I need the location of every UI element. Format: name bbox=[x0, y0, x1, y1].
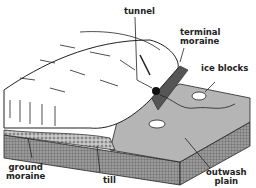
tunnel-opening bbox=[152, 87, 160, 95]
label-outwash-plain: outwash plain bbox=[206, 168, 247, 186]
label-till: till bbox=[103, 176, 116, 185]
ice-block bbox=[149, 120, 165, 128]
label-tunnel: tunnel bbox=[124, 7, 155, 16]
ice-block bbox=[192, 92, 206, 100]
label-terminal-moraine: terminal moraine bbox=[180, 28, 221, 46]
label-ice-blocks: ice blocks bbox=[201, 64, 248, 73]
glacier-diagram: tunnel terminal moraine ice blocks groun… bbox=[0, 0, 256, 188]
label-ground-moraine: ground moraine bbox=[6, 163, 45, 181]
